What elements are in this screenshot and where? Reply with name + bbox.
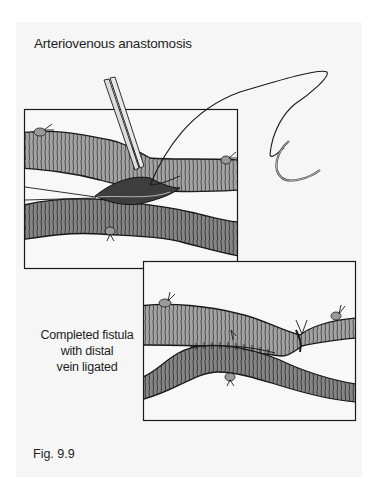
side-caption-line: Completed fistula xyxy=(38,327,136,343)
panel-1 xyxy=(20,71,327,268)
panel-2 xyxy=(140,262,356,421)
figure-label: Fig. 9.9 xyxy=(33,447,75,461)
side-caption: Completed fistula with distal vein ligat… xyxy=(38,327,136,375)
side-caption-line: with distal xyxy=(38,343,136,359)
anastomosis-illustration xyxy=(0,0,375,493)
side-caption-line: vein ligated xyxy=(38,359,136,375)
